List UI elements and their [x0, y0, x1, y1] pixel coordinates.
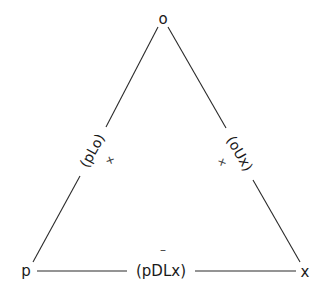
vertex-x-label: x — [301, 263, 310, 281]
edge-left-label: (pLo) — [76, 131, 107, 170]
edge-right-label: (oUx) — [223, 133, 256, 174]
edge-left-upper — [106, 27, 158, 127]
edge-left-sign: + — [103, 152, 117, 169]
edge-right-sign: + — [215, 154, 229, 171]
vertex-o-label: o — [158, 10, 167, 28]
edge-bottom-sign: – — [160, 243, 166, 257]
triangle-diagram: o p x (pLo) (oUx) (pDLx) + + – — [0, 0, 321, 296]
edge-bottom-label: (pDLx) — [136, 262, 186, 280]
edge-left-lower — [33, 176, 80, 262]
edge-right-upper — [168, 27, 226, 128]
edge-right-lower — [253, 180, 300, 262]
vertex-p-label: p — [21, 262, 31, 280]
